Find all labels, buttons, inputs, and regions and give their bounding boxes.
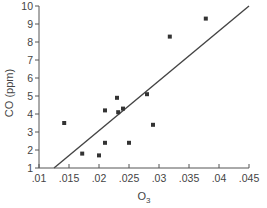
- data-point-square: [151, 123, 155, 127]
- data-point-square: [127, 141, 131, 145]
- x-tick-label: .01: [32, 172, 47, 184]
- data-point-square: [103, 141, 107, 145]
- x-tick-label: .03: [152, 172, 167, 184]
- y-tick-label: 5: [27, 90, 33, 102]
- y-tick-label: 6: [27, 72, 33, 84]
- data-point-square: [168, 35, 172, 39]
- y-axis-title: CO (ppm): [3, 69, 15, 117]
- data-point-square: [62, 121, 66, 125]
- data-point-square: [80, 152, 84, 156]
- x-tick-label: .04: [212, 172, 227, 184]
- data-point-square: [103, 108, 107, 112]
- data-point-square: [115, 96, 119, 100]
- data-point-square: [116, 110, 120, 114]
- x-axis-title: O3: [137, 190, 151, 205]
- x-tick-label: .025: [119, 172, 140, 184]
- y-tick-label: 3: [27, 126, 33, 138]
- y-tick-label: 10: [21, 0, 33, 12]
- y-axis-ticks: 12345678910: [21, 0, 39, 174]
- x-tick-label: .015: [59, 172, 80, 184]
- data-point-square: [145, 92, 149, 96]
- y-tick-label: 7: [27, 54, 33, 66]
- axes: [39, 6, 249, 168]
- y-tick-label: 4: [27, 108, 33, 120]
- x-tick-label: .045: [239, 172, 260, 184]
- x-axis-ticks: .01.015.02.025.03.035.04.045: [32, 164, 260, 184]
- y-tick-label: 9: [27, 18, 33, 30]
- fit-line: [54, 6, 249, 168]
- data-points: [62, 17, 208, 158]
- scatter-chart: 12345678910 .01.015.02.025.03.035.04.045…: [0, 0, 267, 208]
- y-tick-label: 2: [27, 144, 33, 156]
- data-point-square: [97, 153, 101, 157]
- x-tick-label: .02: [92, 172, 107, 184]
- regression-line: [54, 6, 249, 168]
- x-axis-title-subscript: 3: [146, 196, 151, 205]
- x-tick-label: .035: [179, 172, 200, 184]
- data-point-square: [204, 17, 208, 21]
- y-tick-label: 8: [27, 36, 33, 48]
- data-point-square: [121, 107, 125, 111]
